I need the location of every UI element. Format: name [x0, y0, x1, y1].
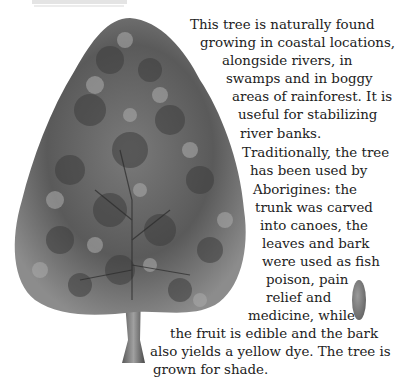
- text-line: alongside rivers, in: [222, 54, 352, 67]
- text-line: also yields a yellow dye. The tree is: [150, 345, 391, 358]
- text-line: medicine, while: [248, 309, 355, 322]
- text-line: were used as fish: [262, 255, 380, 268]
- text-line: relief and: [266, 291, 331, 304]
- text-line: river banks.: [240, 127, 321, 140]
- text-line: Traditionally, the tree: [242, 146, 389, 159]
- text-line: useful for stabilizing: [238, 108, 377, 121]
- text-line: the fruit is edible and the bark: [170, 327, 378, 340]
- text-line: poison, pain: [266, 273, 348, 286]
- text-line: trunk was carved: [255, 201, 373, 214]
- text-line: into canoes, the: [260, 219, 368, 232]
- text-line: grown for shade.: [153, 363, 268, 376]
- text-line: has been used by: [250, 164, 367, 177]
- text-line: areas of rainforest. It is: [232, 90, 392, 103]
- text-line: Aborigines: the: [253, 183, 357, 196]
- text-line: leaves and bark: [262, 237, 369, 250]
- text-line: This tree is naturally found: [190, 18, 375, 31]
- fruit-illustration: [352, 280, 366, 320]
- text-line: swamps and in boggy: [226, 72, 373, 85]
- text-line: growing in coastal locations,: [200, 36, 395, 49]
